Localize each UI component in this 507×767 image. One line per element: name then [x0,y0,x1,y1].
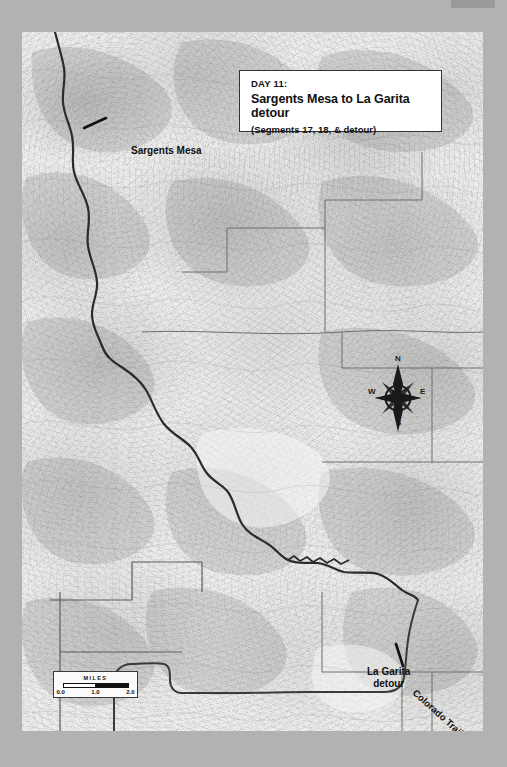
scale-tick-2: 2.0 [126,689,134,695]
label-la-garita-line1: La Garita [367,666,410,678]
title-route-name: Sargents Mesa to La Garita detour [251,92,430,120]
compass-west-label: W [368,387,376,396]
scale-tick-0: 0.0 [57,689,65,695]
label-la-garita-detour: La Garita detour [367,666,410,690]
compass-east-label: E [420,387,425,396]
scale-tick-1: 1.0 [91,689,99,695]
scale-bar-card: MILES 0.0 1.0 2.0 [53,671,138,698]
compass-south-label: S [396,418,401,427]
scale-bar-ticks: 0.0 1.0 2.0 [57,689,135,695]
map-title-card: DAY 11: Sargents Mesa to La Garita detou… [239,70,442,132]
scale-bar-title: MILES [54,675,137,681]
scale-bar-segment-2 [96,683,129,688]
topographic-map-plate[interactable]: Sargents Mesa La Garita detour Colorado … [22,32,483,731]
label-la-garita-line2: detour [367,678,410,690]
scale-bar-segment-1 [63,683,96,688]
title-day-label: DAY 11: [251,78,430,89]
compass-north-label: N [395,354,401,363]
compass-rose: N E S W [367,354,429,430]
title-segments-note: (Segments 17, 18, & detour) [251,124,430,135]
map-page: Sargents Mesa La Garita detour Colorado … [0,0,507,767]
label-sargents-mesa: Sargents Mesa [131,145,202,156]
scale-bar-graphic [63,683,129,688]
page-number-tab [451,0,495,8]
